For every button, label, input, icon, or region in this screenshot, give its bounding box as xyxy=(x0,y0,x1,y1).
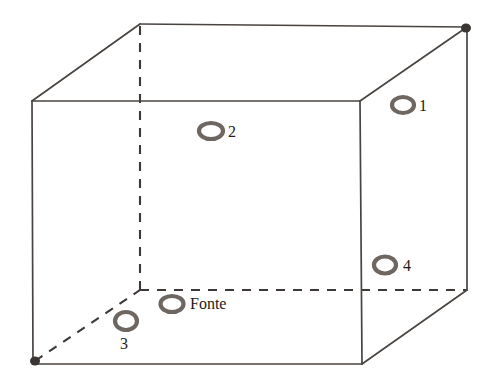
marker-3[interactable] xyxy=(115,312,137,330)
figure-canvas: 1234Fonte xyxy=(0,0,496,385)
label-fonte: Fonte xyxy=(190,296,226,312)
box-diagram-svg xyxy=(0,0,496,385)
corner-blob-front-bottom-left xyxy=(30,357,40,366)
edge-front-left-vertical xyxy=(32,101,33,364)
label-4: 4 xyxy=(403,258,411,274)
edge-depth-bottom-right xyxy=(362,290,467,364)
label-2: 2 xyxy=(228,124,236,140)
edge-back-top xyxy=(140,24,467,27)
label-1: 1 xyxy=(419,98,427,114)
marker-4[interactable] xyxy=(374,257,396,274)
marker-2[interactable] xyxy=(199,123,223,139)
marker-fonte[interactable] xyxy=(161,296,184,312)
marker-1[interactable] xyxy=(392,97,414,113)
edge-depth-top-right xyxy=(360,27,467,101)
corner-blobs-group xyxy=(30,24,471,366)
measurement-markers-group xyxy=(115,97,414,330)
hidden-edges-group xyxy=(35,26,466,361)
visible-edges-group xyxy=(32,24,467,364)
edge-front-right-vertical xyxy=(360,101,362,364)
corner-blob-back-top-right xyxy=(461,24,471,33)
label-3: 3 xyxy=(120,336,128,352)
edge-depth-top-left xyxy=(32,24,140,101)
